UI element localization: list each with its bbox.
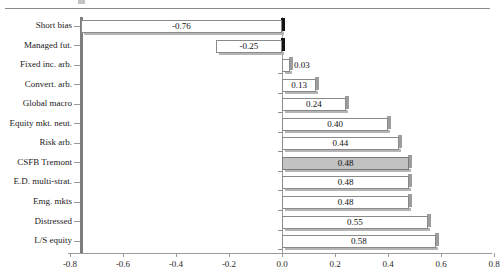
zero-axis-tick xyxy=(278,132,283,133)
zero-axis-tick xyxy=(278,190,283,191)
x-axis-tick-label: -0.4 xyxy=(156,259,196,270)
x-axis-tick xyxy=(229,253,230,257)
category-label-emg-mkts: Emg. mkts xyxy=(0,196,72,206)
category-label-short-bias: Short bias xyxy=(0,20,72,30)
bar-value-label: 0.48 xyxy=(282,157,409,170)
category-axis-tick xyxy=(74,221,80,222)
category-label-managed-fut: Managed fut. xyxy=(0,40,72,50)
bar-value-label: 0.55 xyxy=(282,216,428,229)
category-axis-tick xyxy=(74,84,80,85)
category-axis-spine xyxy=(80,17,83,253)
bar-value-label: 0.44 xyxy=(282,137,399,150)
category-label-global-macro: Global macro xyxy=(0,98,72,108)
category-axis-tick xyxy=(74,104,80,105)
x-axis-tick-label: -0.6 xyxy=(103,259,143,270)
x-axis-tick xyxy=(494,253,495,257)
zero-axis-tick xyxy=(278,112,283,113)
cut-off-text-descender xyxy=(78,0,85,4)
bar-fixed-inc-arb xyxy=(282,59,290,72)
zero-axis-tick xyxy=(278,230,283,231)
category-label-csfb-tremont: CSFB Tremont xyxy=(0,157,72,167)
bar-value-label: -0.76 xyxy=(81,20,282,33)
x-axis-tick-label: 0.6 xyxy=(421,259,461,270)
category-axis-tick xyxy=(74,182,80,183)
value-axis-line xyxy=(68,253,492,254)
category-label-risk-arb: Risk arb. xyxy=(0,137,72,147)
category-label-convert-arb: Convert. arb. xyxy=(0,79,72,89)
x-axis-tick xyxy=(282,253,283,257)
x-axis-tick-label: 0.0 xyxy=(262,259,302,270)
bar-value-label: 0.48 xyxy=(282,196,409,209)
category-axis-tick xyxy=(74,143,80,144)
x-axis-tick-label: 0.4 xyxy=(368,259,408,270)
x-axis-tick-label: -0.8 xyxy=(50,259,90,270)
x-axis-tick xyxy=(123,253,124,257)
category-axis-tick xyxy=(74,202,80,203)
bar-value-label: -0.25 xyxy=(216,40,282,53)
category-axis-tick xyxy=(74,45,80,46)
category-axis-tick xyxy=(74,65,80,66)
bar-value-label: 0.48 xyxy=(282,176,409,189)
x-axis-tick xyxy=(441,253,442,257)
category-label-e-d-multi-strat: E.D. multi-strat. xyxy=(0,176,72,186)
x-axis-tick xyxy=(70,253,71,257)
zero-axis-tick xyxy=(278,73,283,74)
zero-axis-tick xyxy=(278,210,283,211)
zero-axis-tick xyxy=(278,151,283,152)
bar-value-label: 0.40 xyxy=(282,118,388,131)
category-label-distressed: Distressed xyxy=(0,216,72,226)
x-axis-tick xyxy=(388,253,389,257)
x-axis-tick-label: 0.8 xyxy=(474,259,504,270)
bar-value-label: 0.24 xyxy=(282,98,346,111)
x-axis-tick xyxy=(176,253,177,257)
zero-axis-tick xyxy=(278,249,283,250)
bar-value-label: 0.58 xyxy=(282,235,436,248)
category-label-fixed-inc-arb: Fixed inc. arb. xyxy=(0,59,72,69)
bar-value-label: 0.03 xyxy=(294,59,334,72)
zero-axis-tick xyxy=(278,93,283,94)
bar-value-label: 0.13 xyxy=(282,79,316,92)
zero-axis-tick xyxy=(278,171,283,172)
x-axis-tick xyxy=(335,253,336,257)
category-axis-tick xyxy=(74,241,80,242)
x-axis-tick-label: 0.2 xyxy=(315,259,355,270)
category-label-equity-mkt-neut: Equity mkt. neut. xyxy=(0,118,72,128)
category-axis-tick xyxy=(74,123,80,124)
category-axis-tick xyxy=(74,26,80,27)
category-label-l-s-equity: L/S equity xyxy=(0,235,72,245)
category-axis-tick xyxy=(74,162,80,163)
x-axis-tick-label: -0.2 xyxy=(209,259,249,270)
top-horizontal-rule xyxy=(5,8,490,9)
